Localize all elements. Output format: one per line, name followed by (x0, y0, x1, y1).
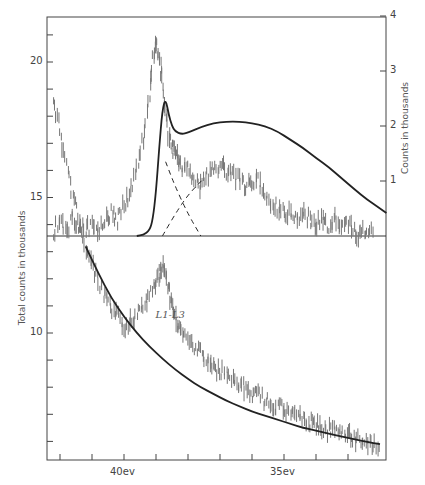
annotation-l1-l3: L1-L3 (156, 309, 185, 320)
y-right-tick-label: 2 (390, 119, 396, 130)
y-right-tick-label: 4 (390, 9, 396, 20)
y-right-axis-title: Counts in thousands (400, 82, 410, 174)
y-left-tick-label: 20 (30, 55, 43, 66)
y-left-axis-title: Total counts in thousands (17, 211, 27, 326)
y-right-tick-label: 1 (390, 174, 396, 185)
y-left-tick-label: 10 (30, 326, 43, 337)
plot-area (0, 0, 425, 485)
solid-curve (137, 102, 387, 236)
y-right-tick-label: 3 (390, 64, 396, 75)
x-tick-label: 40ev (110, 466, 135, 477)
error-bar-series (54, 97, 380, 456)
x-tick-label: 35ev (270, 466, 295, 477)
dashed-component-curve (166, 162, 201, 236)
y-left-tick-label: 15 (30, 191, 43, 202)
data-series (54, 0, 387, 456)
solid-curve (86, 246, 380, 444)
